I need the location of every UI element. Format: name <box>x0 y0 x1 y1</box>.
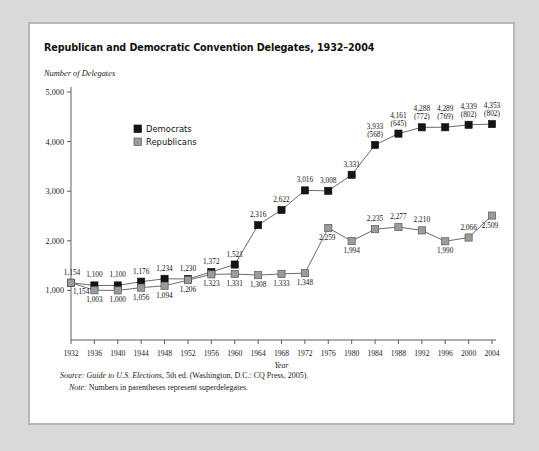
y-axis-tick-label: 5,000 <box>46 88 64 97</box>
chart-plot-area: 1,0002,0003,0004,0005,000193219361940194… <box>30 24 517 427</box>
figure-card-inner: Republican and Democratic Convention Del… <box>30 24 513 423</box>
x-axis-tick-label: 1964 <box>251 349 266 358</box>
y-axis-tick-label: 2,000 <box>46 237 64 246</box>
figure-notes: Source: Guide to U.S. Elections, 5th ed.… <box>60 370 500 395</box>
data-label: 1,206 <box>180 285 197 294</box>
data-label: 1,056 <box>133 293 150 302</box>
data-label: 1,234 <box>156 264 173 273</box>
superdelegate-label: (568) <box>367 130 383 139</box>
superdelegate-label: (772) <box>414 112 430 121</box>
data-label: 1,348 <box>297 278 314 287</box>
data-point-marker <box>488 120 495 127</box>
x-axis-tick-label: 1992 <box>414 349 429 358</box>
x-axis-tick-label: 1996 <box>438 349 453 358</box>
x-axis-tick-label: 1984 <box>367 349 382 358</box>
data-label: 2,066 <box>460 223 477 232</box>
data-point-marker <box>184 277 191 284</box>
y-axis-tick-label: 1,000 <box>46 286 64 295</box>
data-label: 1,100 <box>110 270 127 279</box>
data-label: 1,994 <box>343 246 360 255</box>
data-label: 2,235 <box>367 214 384 223</box>
data-label: 2,210 <box>414 215 431 224</box>
data-point-marker <box>91 287 98 294</box>
x-axis-tick-label: 1960 <box>227 349 242 358</box>
data-point-marker <box>161 282 168 289</box>
figure-card: Republican and Democratic Convention Del… <box>28 22 515 425</box>
data-point-marker <box>465 234 472 241</box>
x-axis-tick-label: 1988 <box>391 349 406 358</box>
data-point-marker <box>231 261 238 268</box>
data-point-marker <box>395 130 402 137</box>
legend-swatch-republicans <box>134 138 142 146</box>
x-axis-tick-label: 1968 <box>274 349 289 358</box>
data-label: 1,003 <box>86 295 103 304</box>
superdelegate-label: (802) <box>484 109 500 118</box>
data-point-marker <box>278 206 285 213</box>
data-label: 1,331 <box>227 279 244 288</box>
data-point-marker <box>348 237 355 244</box>
x-axis-tick-label: 1948 <box>157 349 172 358</box>
data-label: 1,308 <box>250 280 267 289</box>
data-point-marker <box>418 124 425 131</box>
data-label: 1,372 <box>203 257 220 266</box>
data-point-marker <box>488 212 495 219</box>
source-title: Guide to U.S. Elections, <box>87 371 164 380</box>
data-label: 2,622 <box>273 195 290 204</box>
superdelegate-note: Note: Numbers in parentheses represent s… <box>60 382 500 394</box>
data-label: 2,259 <box>319 233 336 242</box>
x-axis-tick-label: 1980 <box>344 349 359 358</box>
data-point-marker <box>114 287 121 294</box>
data-label: 3,016 <box>297 175 314 184</box>
x-axis-tick-label: 2000 <box>461 349 476 358</box>
x-axis-tick-label: 1932 <box>63 349 78 358</box>
data-label: 1,176 <box>133 267 150 276</box>
data-point-marker <box>208 271 215 278</box>
x-axis-tick-label: 2004 <box>484 349 499 358</box>
data-label: 2,277 <box>390 212 407 221</box>
x-axis-tick-label: 1976 <box>321 349 336 358</box>
data-point-marker <box>442 124 449 131</box>
legend-label-democrats: Democrats <box>146 124 192 134</box>
data-point-marker <box>67 279 74 286</box>
y-axis-tick-label: 4,000 <box>46 138 64 147</box>
legend-label-republicans: Republicans <box>146 137 197 147</box>
data-label: 1,000 <box>110 295 127 304</box>
source-rest: 5th ed. (Washington, D.C.: CQ Press, 200… <box>164 371 308 380</box>
data-label: 1,230 <box>180 264 197 273</box>
page-background: Republican and Democratic Convention Del… <box>0 0 539 451</box>
data-label: 1,100 <box>86 270 103 279</box>
source-label: Source: <box>60 371 85 380</box>
data-label: 2,316 <box>250 210 267 219</box>
x-axis-tick-label: 1952 <box>180 349 195 358</box>
data-label: 1,333 <box>273 279 290 288</box>
y-axis-tick-label: 3,000 <box>46 187 64 196</box>
data-point-marker <box>348 171 355 178</box>
data-point-marker <box>465 121 472 128</box>
data-point-marker <box>418 227 425 234</box>
data-point-marker <box>301 187 308 194</box>
x-axis-tick-label: 1972 <box>297 349 312 358</box>
data-point-marker <box>395 223 402 230</box>
superdelegate-label: (645) <box>391 119 407 128</box>
note-text: Numbers in parentheses represent superde… <box>87 383 248 392</box>
data-label: 2,509 <box>482 221 499 230</box>
data-point-marker <box>278 270 285 277</box>
data-label: 3,331 <box>343 160 360 169</box>
source-note: Source: Guide to U.S. Elections, 5th ed.… <box>60 370 500 382</box>
data-label: 3,008 <box>320 176 337 185</box>
data-label: 1,323 <box>203 279 220 288</box>
data-point-marker <box>138 284 145 291</box>
data-point-marker <box>325 224 332 231</box>
x-axis-tick-label: 1956 <box>204 349 219 358</box>
data-point-marker <box>301 270 308 277</box>
x-axis-tick-label: 1936 <box>87 349 102 358</box>
data-point-marker <box>371 226 378 233</box>
data-point-marker <box>371 141 378 148</box>
superdelegate-label: (802) <box>461 110 477 119</box>
superdelegate-label: (769) <box>437 112 453 121</box>
legend-swatch-democrats <box>134 125 142 133</box>
series-line-democrats <box>71 124 492 285</box>
data-label: 1,990 <box>437 246 454 255</box>
x-axis-tick-label: 1944 <box>134 349 149 358</box>
data-label: 1,521 <box>227 250 244 259</box>
